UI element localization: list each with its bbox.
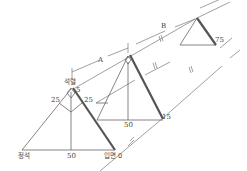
label-left-25: 25 (51, 96, 60, 104)
right-right-edge-thick (197, 18, 216, 45)
mid-right-edge-thick (130, 55, 163, 119)
right-triangle (180, 18, 216, 45)
ridge-line-ext (197, 2, 230, 18)
inner-left-line (59, 103, 71, 112)
inner-right-line (71, 103, 82, 112)
break-mark (153, 63, 155, 69)
mid-guide-line-ext (145, 62, 170, 75)
mid-left-side (97, 56, 128, 120)
label-mid-base-50: 50 (124, 121, 133, 129)
label-apex-5: 5 (76, 86, 80, 94)
break-mark (189, 67, 191, 73)
dimension-line-a-left (72, 60, 100, 72)
break-mark (155, 62, 157, 68)
label-small-right-75: 75 (215, 36, 224, 44)
break-mark (191, 66, 193, 72)
left-right-edge-thick (73, 88, 115, 150)
lower-guide-line-3 (230, 50, 240, 58)
labels: A B 석렬 5 25 25 정석 50 입면 0 50 15 75 (18, 22, 224, 160)
dimension-line-a-right (108, 48, 128, 56)
label-bottom-right: 입면 0 (104, 151, 122, 160)
pyramid-projection-diagram: A B 석렬 5 25 25 정석 50 입면 0 50 15 75 (0, 0, 247, 171)
lower-guide-line-2 (163, 66, 222, 118)
label-top-apex: 석렬 (64, 77, 76, 86)
mid-guide-line (96, 80, 135, 103)
middle-triangle (97, 55, 163, 120)
label-bottom-left: 정석 (18, 151, 30, 160)
guide-lines (72, 0, 240, 171)
label-mid-right-15: 15 (162, 113, 171, 121)
label-right-25: 25 (84, 96, 93, 104)
ridge-line (75, 18, 197, 88)
upper-line-ext (200, 0, 232, 8)
left-triangle (22, 88, 115, 150)
right-left-side (180, 18, 197, 45)
left-side (22, 89, 71, 150)
label-a: A (97, 56, 104, 64)
label-b: B (161, 22, 166, 30)
label-left-base-50: 50 (67, 152, 76, 160)
